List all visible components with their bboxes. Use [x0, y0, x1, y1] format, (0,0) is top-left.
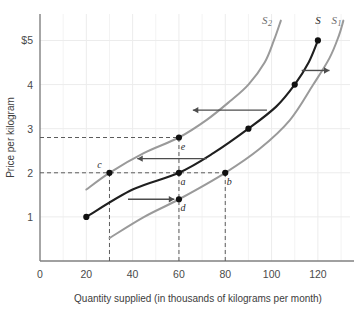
y-tick-label-3: 3 [27, 123, 33, 135]
x-tick-label-60: 60 [173, 268, 185, 280]
point-label-a: a [180, 176, 185, 187]
shift-arrow-head-arrow-increase-supply-high [324, 67, 330, 73]
supply-curves-group [86, 21, 343, 238]
tick-labels-group: 0204060801001201234$5 [21, 34, 326, 280]
curve-labels-group: SS2S1 [262, 14, 341, 29]
point-label-e: e [181, 141, 186, 152]
axes-group [40, 14, 354, 261]
curve-label-subscript-S2: 2 [268, 19, 272, 28]
y-tick-label-1: 1 [27, 211, 33, 223]
data-point-s-110 [292, 81, 298, 87]
curve-label-S1: S1 [331, 14, 341, 29]
x-tick-label-0: 0 [37, 268, 43, 280]
data-point-s-90 [245, 126, 251, 132]
supply-curve-S1 [109, 21, 343, 238]
curve-label-subscript-S1: 1 [337, 19, 341, 28]
shift-arrow-head-arrow-decrease-supply-high [193, 107, 199, 113]
chart-canvas: abcde 0204060801001201234$5 SS2S1 Quanti… [0, 0, 360, 315]
point-label-d: d [180, 202, 186, 213]
curve-label-S: S [315, 14, 321, 26]
supply-curve-S2 [86, 21, 281, 190]
x-axis-title: Quantity supplied (in thousands of kilog… [74, 293, 322, 304]
x-tick-label-100: 100 [263, 268, 281, 280]
y-tick-label-4: 4 [27, 79, 33, 91]
x-tick-label-40: 40 [127, 268, 139, 280]
x-tick-label-80: 80 [219, 268, 231, 280]
point-label-b: b [227, 176, 232, 187]
x-tick-label-120: 120 [309, 268, 327, 280]
point-label-c: c [97, 159, 102, 170]
grid-lines-group [40, 14, 350, 261]
data-point-c [106, 170, 112, 176]
data-point-origin-s [83, 214, 89, 220]
y-tick-label-5: $5 [21, 34, 33, 46]
x-tick-label-20: 20 [80, 268, 92, 280]
y-axis-title: Price per kilogram [5, 97, 16, 178]
y-tick-label-2: 2 [27, 167, 33, 179]
supply-curve-chart: abcde 0204060801001201234$5 SS2S1 Quanti… [0, 0, 360, 315]
data-point-s-120 [315, 37, 321, 43]
curve-label-S2: S2 [262, 14, 272, 29]
